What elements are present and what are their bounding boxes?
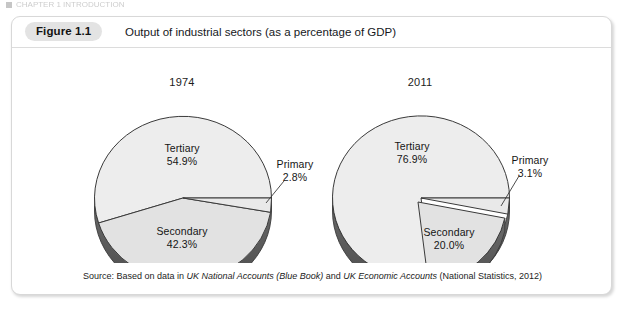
slice-label-tertiary-1974: Tertiary 54.9% <box>122 142 242 168</box>
page-header-remnant: CHAPTER 1 INTRODUCTION <box>6 1 196 10</box>
slice-label-primary-2011: Primary 3.1% <box>497 154 563 180</box>
figure-header: Figure 1.1 Output of industrial sectors … <box>12 17 611 48</box>
figure-source: Source: Based on data in UK National Acc… <box>12 270 613 282</box>
figure-body: 1974 Tertiary 54.9 <box>12 48 611 296</box>
page-header-remnant-text: CHAPTER 1 INTRODUCTION <box>16 1 124 9</box>
source-mid: and <box>323 271 343 281</box>
figure-card: Figure 1.1 Output of industrial sectors … <box>11 16 612 295</box>
slice-label-secondary-2011: Secondary 20.0% <box>389 226 509 252</box>
slice-label-secondary-1974: Secondary 42.3% <box>122 225 242 251</box>
pie-chart-2011: 2011 <box>272 48 572 263</box>
slice-label-tertiary-2011: Tertiary 76.9% <box>352 140 472 166</box>
figure-number-badge: Figure 1.1 <box>25 22 102 41</box>
source-suffix: (National Statistics, 2012) <box>437 271 542 281</box>
source-prefix: Source: Based on data in <box>83 271 187 281</box>
source-title-2: UK Economic Accounts <box>343 271 437 281</box>
header-bullet-icon <box>6 2 12 8</box>
figure-caption: Output of industrial sectors (as a perce… <box>125 24 396 40</box>
source-title-1: UK National Accounts (Blue Book) <box>187 271 324 281</box>
